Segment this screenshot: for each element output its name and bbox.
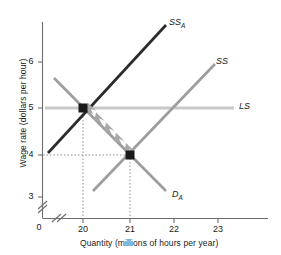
- x-tick-marks: [83, 219, 218, 224]
- label-d-a-subscript: A: [179, 194, 183, 201]
- label-ss-a-subscript: A: [181, 22, 185, 29]
- dotted-guide-lines: [43, 108, 130, 216]
- label-ls: LS: [239, 101, 250, 111]
- x-tick-label-23: 23: [209, 224, 227, 234]
- chart-plot-area: [0, 0, 281, 255]
- economics-chart-figure: 6 5 4 3 0 20 21 22 23 Wage rate (dollars…: [0, 0, 281, 255]
- adjustment-arrows: [86, 103, 135, 155]
- label-ss-text: SS: [216, 56, 228, 66]
- x-axis-title: Quantity (millions of hours per year): [80, 238, 218, 248]
- y-axis-title: Wage rate (dollars per hour): [18, 43, 28, 183]
- y-tick-marks: [38, 62, 43, 197]
- equilibrium-upper-marker: [79, 104, 88, 113]
- x-tick-label-22: 22: [165, 224, 183, 234]
- x-tick-label-21: 21: [121, 224, 139, 234]
- label-ss-a-text: SS: [169, 17, 181, 27]
- x-tick-label-20: 20: [74, 224, 92, 234]
- y-tick-label-3: 3: [22, 191, 40, 201]
- equilibrium-lower-marker: [126, 151, 135, 160]
- label-d-a: DA: [172, 189, 183, 201]
- label-ls-text: LS: [239, 101, 250, 111]
- label-ss: SS: [216, 56, 228, 66]
- label-ss-a: SSA: [169, 17, 185, 29]
- origin-label: 0: [30, 222, 48, 232]
